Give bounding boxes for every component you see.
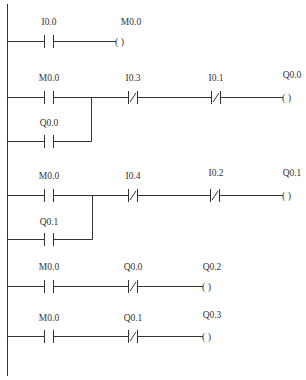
- label-q0-1-coil: Q0.1: [283, 168, 302, 178]
- rung-5: ( ) M0.0 Q0.1 Q0.3: [8, 310, 222, 343]
- coil-q0-0: ( ): [282, 92, 291, 104]
- ladder-diagram: ( ) I0.0 M0.0 ( ) M0: [0, 0, 306, 380]
- label-i0-1: I0.1: [208, 73, 223, 83]
- rung-4: ( ) M0.0 Q0.0 Q0.2: [8, 262, 222, 293]
- coil-m0-0: ( ): [115, 36, 124, 48]
- label-i0-4: I0.4: [125, 171, 140, 181]
- label-q0-0: Q0.0: [124, 262, 143, 272]
- no-contact-m0-0: [45, 91, 54, 104]
- label-i0-2: I0.2: [208, 168, 223, 178]
- nc-contact-q0-1: [129, 330, 138, 343]
- no-contact-m0-0: [45, 280, 54, 293]
- coil-q0-1: ( ): [282, 190, 291, 202]
- label-m0-0-coil: M0.0: [121, 17, 142, 27]
- label-q0-2-coil: Q0.2: [203, 262, 222, 272]
- rung-3: ( ) M0.0 I0.4 I0.2 Q0.1 Q0.1: [8, 168, 302, 246]
- nc-contact-q0-0: [129, 280, 138, 293]
- label-q0-1: Q0.1: [124, 313, 143, 323]
- nc-contact-i0-3: [129, 91, 138, 104]
- no-contact-q0-0-branch: [45, 135, 54, 148]
- nc-contact-i0-2: [211, 189, 220, 202]
- rung-2: ( ) M0.0 I0.3 I0.1 Q0.0 Q0.0: [8, 70, 302, 148]
- nc-contact-i0-4: [129, 189, 138, 202]
- no-contact-i0-0: [45, 35, 54, 48]
- nc-contact-i0-1: [212, 91, 221, 104]
- label-i0-3: I0.3: [125, 73, 140, 83]
- rung-1: ( ) I0.0 M0.0: [8, 17, 142, 48]
- label-m0-0: M0.0: [39, 171, 60, 181]
- label-m0-0: M0.0: [39, 262, 60, 272]
- label-q0-0-branch: Q0.0: [40, 118, 59, 128]
- label-q0-0-coil: Q0.0: [283, 70, 302, 80]
- label-q0-1-branch: Q0.1: [40, 217, 59, 227]
- label-m0-0: M0.0: [39, 73, 60, 83]
- coil-q0-2: ( ): [202, 281, 211, 293]
- no-contact-q0-1-branch: [45, 233, 54, 246]
- no-contact-m0-0: [45, 189, 54, 202]
- label-m0-0: M0.0: [39, 313, 60, 323]
- label-i0-0: I0.0: [41, 17, 56, 27]
- coil-q0-3: ( ): [202, 331, 211, 343]
- label-q0-3-coil: Q0.3: [203, 310, 222, 320]
- no-contact-m0-0: [45, 330, 54, 343]
